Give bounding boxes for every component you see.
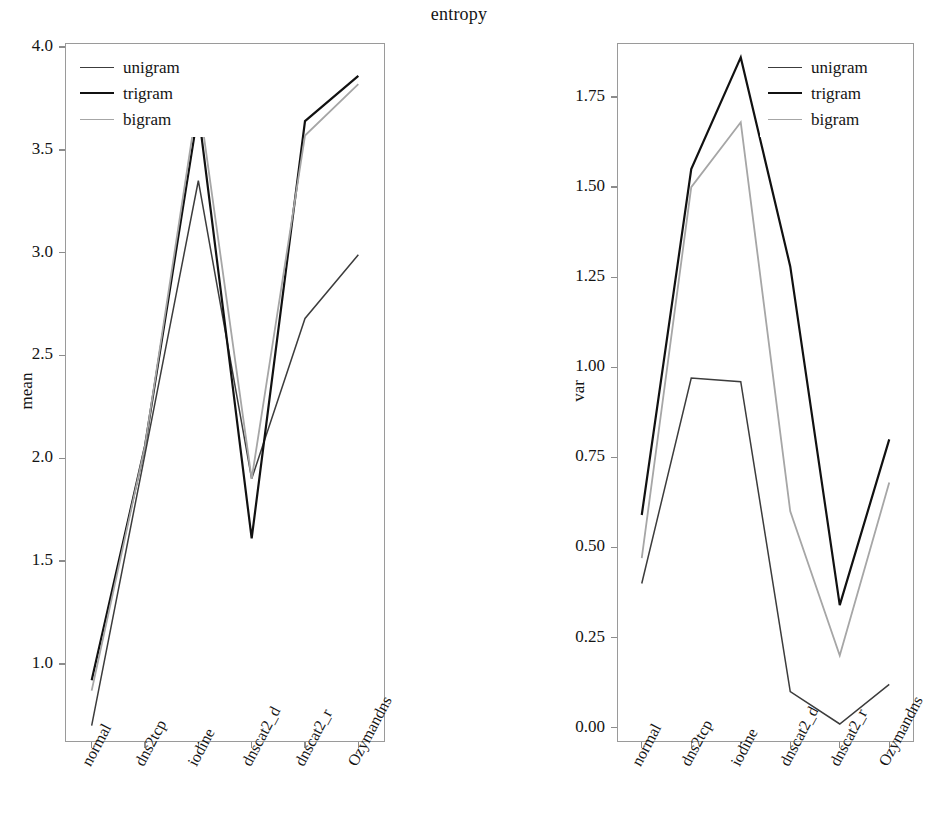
var-panel-y-tick-label: 0.75: [555, 446, 605, 466]
var-panel-y-tick-mark: [611, 277, 617, 278]
var-panel-y-tick-label: 1.50: [555, 176, 605, 196]
var-panel-line-unigram: [642, 378, 890, 724]
legend-item-trigram[interactable]: trigram: [768, 80, 900, 106]
var-panel-y-tick-label: 0.25: [555, 627, 605, 647]
legend-label-trigram: trigram: [811, 85, 861, 102]
legend-item-bigram[interactable]: bigram: [768, 106, 900, 132]
var-panel-y-tick-mark: [611, 727, 617, 728]
var-panel-y-tick-label: 1.25: [555, 266, 605, 286]
var-panel-y-tick-label: 0.50: [555, 536, 605, 556]
var-legend: unigramtrigrambigram: [760, 50, 910, 137]
var-panel-y-axis-label: var: [569, 371, 589, 411]
var-panel-y-tick-label: 1.75: [555, 86, 605, 106]
var-panel-y-tick-mark: [611, 637, 617, 638]
var-panel-y-tick-label: 1.00: [555, 356, 605, 376]
var-panel-y-tick-label: 0.00: [555, 717, 605, 737]
legend-swatch-bigram: [768, 119, 802, 120]
legend-item-unigram[interactable]: unigram: [768, 54, 900, 80]
legend-swatch-unigram: [768, 67, 802, 68]
var-panel-line-bigram: [642, 122, 890, 655]
legend-label-bigram: bigram: [811, 111, 859, 128]
var-panel-y-tick-mark: [611, 367, 617, 368]
var-panel-y-tick-mark: [611, 547, 617, 548]
var-panel-y-tick-mark: [611, 457, 617, 458]
var-panel-line-trigram: [642, 57, 890, 605]
legend-swatch-trigram: [768, 92, 802, 94]
var-panel-y-tick-mark: [611, 186, 617, 187]
legend-label-unigram: unigram: [811, 59, 868, 76]
var-panel-y-tick-mark: [611, 96, 617, 97]
